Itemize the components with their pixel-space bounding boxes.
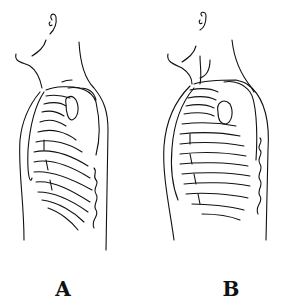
ribs-b [180, 89, 261, 220]
thorax-drawing-b [140, 0, 285, 306]
ear-icon [200, 12, 206, 30]
panel-label-a: A [48, 277, 78, 301]
ribs-a [34, 95, 97, 230]
thorax-drawing-a: A [0, 0, 145, 306]
rib-cage-illustration-b [140, 0, 285, 306]
ear-icon [50, 14, 56, 34]
panel-label-b: B [216, 277, 246, 301]
rib-cage-illustration-a [0, 0, 145, 306]
